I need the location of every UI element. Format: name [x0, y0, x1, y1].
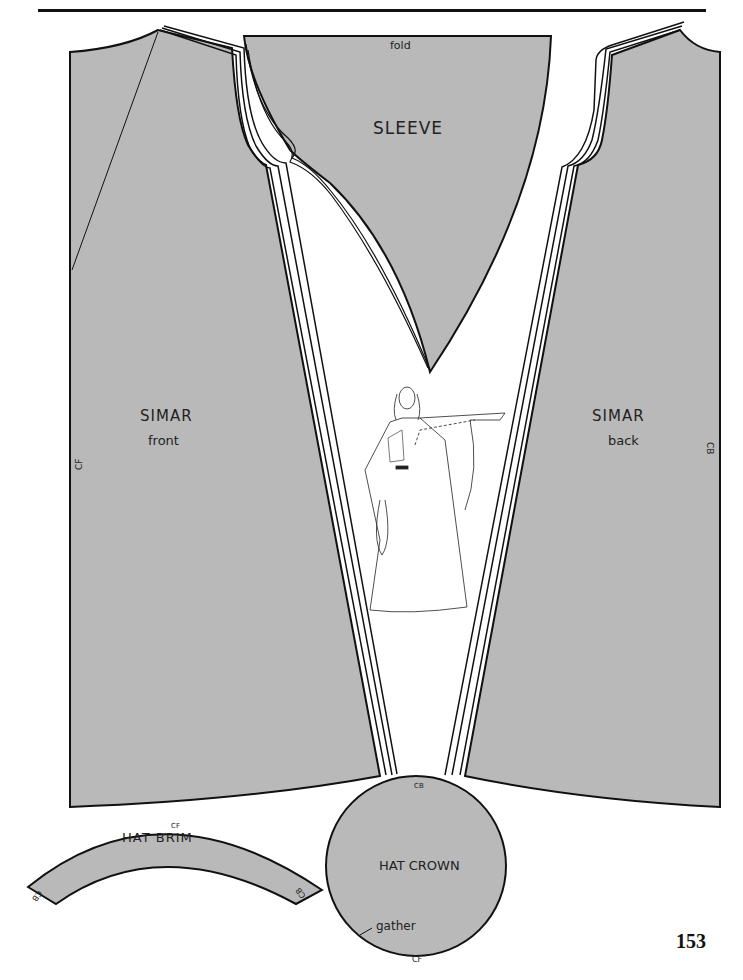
hat-brim-title: HAT BRIM [122, 830, 193, 845]
hat-crown-cb-label: CB [414, 782, 424, 790]
figure-illustration [365, 387, 505, 612]
simar-back-title: SIMAR [592, 407, 645, 425]
simar-back-cb-label: CB [705, 442, 715, 454]
hat-brim-cf-label: CF [171, 822, 180, 830]
simar-back-subtitle: back [608, 433, 639, 448]
simar-front-subtitle: front [148, 433, 179, 448]
sleeve-title: SLEEVE [373, 118, 443, 138]
hat-crown-cf-label: CF [412, 955, 423, 964]
sleeve-fold-label: fold [390, 39, 411, 52]
simar-front-cf-label: CF [74, 459, 84, 470]
page-number: 153 [676, 930, 706, 953]
hat-crown-gather-note: gather [376, 919, 416, 933]
simar-front-title: SIMAR [140, 407, 193, 425]
pattern-sheet: fold SLEEVE SIMAR front CF SIMAR back CB… [0, 0, 743, 980]
hat-crown-title: HAT CROWN [379, 858, 460, 873]
